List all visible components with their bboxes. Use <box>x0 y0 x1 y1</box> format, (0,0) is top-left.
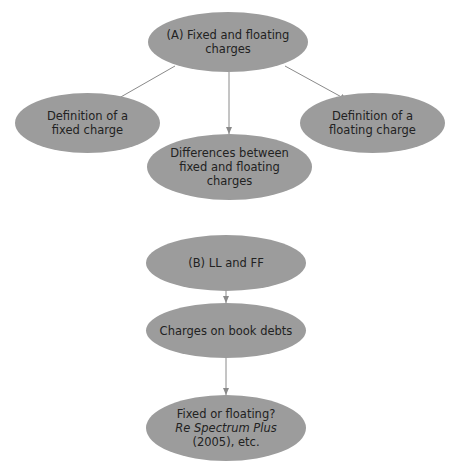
node-text: (B) LL and FF <box>188 256 264 270</box>
node-text: Charges on book debts <box>160 324 293 338</box>
node-a-floating-definition: Definition of a floating charge <box>300 93 445 153</box>
node-text: Definition of a <box>329 109 416 123</box>
node-text: floating charge <box>329 123 416 137</box>
node-text: (2005), etc. <box>175 435 277 449</box>
node-a-differences: Differences between fixed and floating c… <box>147 134 312 200</box>
node-b-book-debts: Charges on book debts <box>146 303 306 358</box>
node-text: fixed charge <box>47 123 128 137</box>
node-text: Definition of a <box>47 109 128 123</box>
node-b-root: (B) LL and FF <box>146 235 306 291</box>
node-text: Differences between <box>170 146 289 160</box>
node-a-root: (A) Fixed and floating charges <box>148 12 308 72</box>
node-a-fixed-definition: Definition of a fixed charge <box>15 93 160 153</box>
node-text: charges <box>170 174 289 188</box>
node-text: fixed and floating <box>170 160 289 174</box>
case-name: Re Spectrum Plus <box>175 421 277 435</box>
node-text: Fixed or floating? <box>175 407 277 421</box>
node-text: charges <box>167 42 290 56</box>
arrow-a-to-right <box>285 66 347 100</box>
node-text: (A) Fixed and floating <box>167 28 290 42</box>
node-b-fixed-or-floating: Fixed or floating? Re Spectrum Plus (200… <box>146 395 306 461</box>
